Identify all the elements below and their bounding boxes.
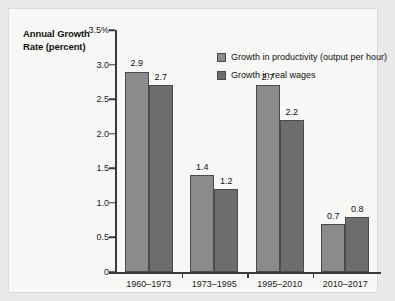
legend-item-productivity: Growth in productivity (output per hour) — [217, 50, 387, 64]
y-axis-tick-label: 2.0 — [75, 129, 109, 139]
x-axis-tick-mark — [313, 272, 315, 278]
bar-value-label: 2.9 — [130, 58, 143, 68]
bar — [149, 85, 173, 272]
y-axis-line — [115, 30, 117, 273]
bar-value-label: 1.4 — [196, 162, 209, 172]
legend-swatch-icon-productivity — [217, 53, 226, 62]
y-axis-tick-label: 0 — [75, 267, 109, 277]
y-axis-tick-mark — [109, 202, 115, 204]
y-axis-tick-label: 1.0 — [75, 198, 109, 208]
bar — [125, 72, 149, 273]
chart-legend: Growth in productivity (output per hour)… — [217, 50, 387, 86]
bar-value-label: 0.8 — [351, 204, 364, 214]
bar — [321, 224, 345, 272]
y-axis-tick-label: 3.5% — [75, 25, 109, 35]
x-axis-category-label: 1960–1973 — [126, 279, 171, 289]
legend-label-productivity: Growth in productivity (output per hour) — [231, 52, 387, 62]
x-axis-category-label: 1995–2010 — [257, 279, 302, 289]
chart-figure: Annual Growth Rate (percent) Growth in p… — [0, 0, 395, 301]
bar-value-label: 2.7 — [261, 72, 274, 82]
y-axis-tick-mark — [109, 133, 115, 135]
bar-value-label: 2.7 — [154, 72, 167, 82]
y-axis-tick-mark — [109, 98, 115, 100]
bar — [190, 175, 214, 272]
y-axis-tick-mark — [109, 237, 115, 239]
legend-swatch-icon-real-wages — [217, 71, 226, 80]
y-axis-tick-label: 3.0 — [75, 60, 109, 70]
bar — [345, 217, 369, 272]
bar-value-label: 0.7 — [327, 211, 340, 221]
bar — [256, 85, 280, 272]
y-axis-tick-label: 0.5 — [75, 232, 109, 242]
y-axis-tick-mark — [109, 29, 115, 31]
y-axis-tick-mark — [109, 168, 115, 170]
legend-item-real-wages: Growth in real wages — [217, 68, 387, 82]
y-axis-tick-mark — [109, 271, 115, 273]
x-axis-category-label: 1973–1995 — [192, 279, 237, 289]
bar-value-label: 2.2 — [285, 107, 298, 117]
x-axis-category-label: 2010–2017 — [323, 279, 368, 289]
bar-value-label: 1.2 — [220, 176, 233, 186]
y-axis-tick-label: 1.5 — [75, 163, 109, 173]
y-axis-tick-labels: 00.51.01.52.02.53.03.5% — [75, 0, 109, 301]
y-axis-tick-mark — [109, 64, 115, 66]
x-axis-tick-mark — [247, 272, 249, 278]
bar — [280, 120, 304, 272]
x-axis-line — [109, 272, 381, 274]
bar — [214, 189, 238, 272]
x-axis-tick-mark — [182, 272, 184, 278]
y-axis-tick-label: 2.5 — [75, 94, 109, 104]
